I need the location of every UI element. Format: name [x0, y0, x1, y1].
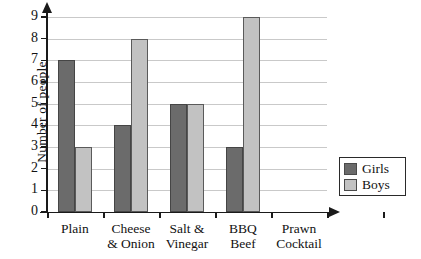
y-axis-tick: [41, 60, 47, 62]
gridline: [47, 82, 327, 83]
y-axis-tick-label-wrap: 6: [10, 74, 38, 88]
y-axis-tick-label-wrap: 8: [10, 31, 38, 45]
x-axis-tick: [215, 212, 217, 218]
y-axis-tick: [41, 125, 47, 127]
x-axis-label-line1: Cheese: [112, 221, 151, 236]
legend-item-girls: Girls: [344, 161, 401, 177]
x-axis-tick: [327, 212, 329, 218]
y-axis-tick-label-wrap: 4: [10, 117, 38, 131]
legend-swatch-boys-icon: [344, 179, 357, 191]
y-axis-tick-label-wrap: 9: [10, 9, 38, 23]
legend-swatch-girls-icon: [344, 163, 357, 175]
plot-area: [47, 17, 327, 212]
y-axis-tick-label-wrap: 2: [10, 161, 38, 175]
gridline: [47, 39, 327, 40]
y-axis-tick-label-wrap: 0: [10, 204, 38, 218]
bar-chart: Number of people 0123456789 PlainCheese&…: [0, 0, 421, 259]
legend: Girls Boys: [339, 157, 406, 196]
y-axis-line: [46, 10, 48, 213]
bar-girls-3: [226, 147, 243, 212]
y-axis-tick: [41, 190, 47, 192]
bar-girls-0: [58, 60, 75, 212]
x-axis-tick: [271, 212, 273, 218]
y-axis-tick-label: 2: [16, 161, 38, 175]
x-axis-label-line1: Prawn: [282, 221, 317, 236]
x-axis-line: [40, 212, 331, 214]
bar-boys-1: [131, 39, 148, 212]
y-axis-tick-label-wrap: 3: [10, 139, 38, 153]
gridline: [47, 17, 327, 18]
y-axis-tick-label: 1: [16, 182, 38, 196]
y-axis-tick-label-wrap: 1: [10, 182, 38, 196]
y-axis-tick-label-wrap: 5: [10, 96, 38, 110]
y-axis-tick: [41, 16, 47, 18]
x-axis-tick: [47, 212, 49, 218]
bar-boys-0: [75, 147, 92, 212]
bar-boys-3: [243, 17, 260, 212]
bar-girls-2: [170, 104, 187, 212]
y-axis-tick: [41, 81, 47, 83]
x-axis-tick: [103, 212, 105, 218]
x-axis-tick: [159, 212, 161, 218]
y-axis-tick: [41, 146, 47, 148]
x-axis-label-line1: BBQ: [229, 221, 257, 236]
gridline: [47, 60, 327, 61]
y-axis-arrow-icon: [42, 2, 52, 13]
legend-item-boys: Boys: [344, 177, 401, 193]
y-axis-tick: [41, 38, 47, 40]
x-axis-label-line1: Plain: [61, 221, 89, 236]
x-axis-arrow-icon: [329, 207, 340, 217]
bar-girls-1: [114, 125, 131, 212]
bar-boys-2: [187, 104, 204, 212]
y-axis-tick-label: 7: [16, 52, 38, 66]
x-axis-category-label-4: PrawnCocktail: [263, 221, 335, 251]
x-axis-label-line1: Salt &: [170, 221, 205, 236]
y-axis-tick-label: 9: [16, 9, 38, 23]
x-axis-label-line2: Cocktail: [263, 236, 335, 251]
y-axis-tick-label: 4: [16, 117, 38, 131]
legend-label-girls: Girls: [362, 162, 389, 176]
y-axis-tick-label: 0: [16, 204, 38, 218]
y-axis-tick: [41, 168, 47, 170]
y-axis-tick-label-wrap: 7: [10, 52, 38, 66]
y-axis-tick-label: 6: [16, 74, 38, 88]
y-axis-tick-label: 5: [16, 96, 38, 110]
y-axis-tick-label: 8: [16, 31, 38, 45]
x-axis-tick: [383, 212, 385, 218]
legend-label-boys: Boys: [362, 178, 390, 192]
y-axis-tick: [41, 103, 47, 105]
y-axis-tick-label: 3: [16, 139, 38, 153]
